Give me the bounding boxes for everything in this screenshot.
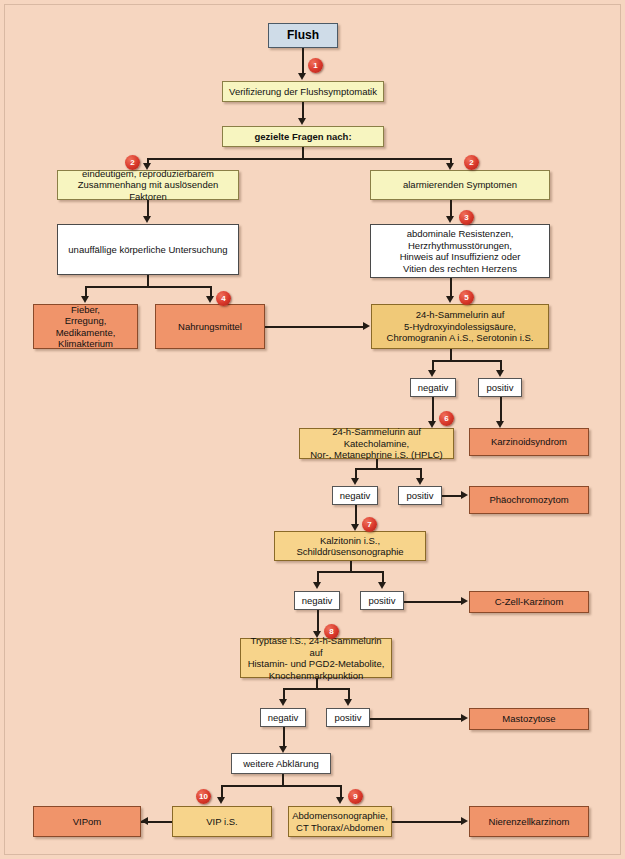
connector-tryptase-split: [283, 688, 349, 690]
arrowhead-kat-negativ: [351, 478, 359, 485]
chip-positiv-2[interactable]: positiv: [398, 486, 442, 505]
badge-8[interactable]: 8: [324, 624, 339, 639]
connector-kalzitonin-split: [317, 571, 383, 573]
arrowhead-abkl-imaging: [336, 797, 344, 804]
node-ursachen-fieber[interactable]: Fieber, Erregung, Medikamente, Klimakter…: [33, 304, 138, 349]
connector-findings-test5hiaa: [450, 278, 452, 296]
arrowhead-test5hiaa-negativ: [428, 370, 436, 377]
node-nahrungsmittel[interactable]: Nahrungsmittel: [155, 304, 265, 349]
chip-negativ-3[interactable]: negativ: [294, 591, 340, 610]
connector-abklaerung-split: [221, 785, 341, 787]
arrowhead-questions-right: [446, 163, 454, 170]
node-test-vip[interactable]: VIP i.S.: [172, 806, 272, 837]
arrowhead-tryp-positiv: [344, 699, 352, 706]
arrowhead-exam-fever: [81, 296, 89, 303]
connector-pos2-pheo: [442, 495, 461, 497]
node-dx-c-zell-karzinom[interactable]: C-Zell-Karzinom: [469, 591, 589, 613]
arrowhead-pos3-czell: [461, 597, 468, 605]
arrowhead-kalz-positiv: [378, 582, 386, 589]
arrowhead-neg2-kalzitonin: [351, 524, 359, 531]
node-start-flush[interactable]: Flush: [268, 23, 338, 48]
arrowhead-pos4-mastozytose: [461, 714, 468, 722]
badge-1[interactable]: 1: [308, 58, 323, 73]
node-test-kalzitonin[interactable]: Kalzitonin i.S., Schilddrüsensonographie: [274, 531, 426, 561]
arrowhead-imaging-renal: [461, 817, 468, 825]
node-dx-phaeochromozytom[interactable]: Phäochromozytom: [469, 486, 589, 514]
connector-neg1-katecholamine: [432, 397, 434, 422]
node-verifizierung[interactable]: Verifizierung der Flushsymptomatik: [222, 81, 384, 102]
connector-exam-split: [85, 286, 211, 288]
badge-2a[interactable]: 2: [125, 155, 140, 170]
arrowhead-pos2-pheo: [461, 491, 468, 499]
arrowhead-food-test5hiaa: [363, 322, 370, 330]
badge-2b[interactable]: 2: [464, 155, 479, 170]
connector-food-test5hiaa: [265, 326, 363, 328]
node-test-bildgebung[interactable]: Abdomensonographie, CT Thorax/Abdomen: [288, 806, 392, 837]
arrowhead-neg3-tryptase: [313, 631, 321, 638]
arrowhead-branchright-findings: [446, 216, 454, 223]
arrowhead-kalz-negativ: [313, 582, 321, 589]
flowchart-canvas: Flush Verifizierung der Flushsymptomatik…: [0, 0, 625, 859]
arrowhead-vip-vipom: [141, 817, 148, 825]
connector-pos3-czell: [404, 601, 461, 603]
badge-5[interactable]: 5: [459, 290, 474, 305]
node-branch-right[interactable]: alarmierenden Symptomen: [370, 170, 550, 200]
connector-neg2-kalzitonin: [355, 505, 357, 525]
node-weitere-abklaerung[interactable]: weitere Abklärung: [231, 753, 331, 774]
node-test-katecholamine[interactable]: 24-h-Sammelurin auf Katecholamine, Nor-,…: [299, 428, 454, 459]
node-test-5hiaa[interactable]: 24-h-Sammelurin auf 5-Hydroxyindolessigs…: [371, 304, 549, 349]
badge-4[interactable]: 4: [216, 291, 231, 306]
node-dx-nierenzellkarzinom[interactable]: Nierenzellkarzinom: [469, 806, 589, 837]
badge-6[interactable]: 6: [439, 411, 454, 426]
connector-imaging-renal: [392, 821, 461, 823]
badge-10[interactable]: 10: [196, 789, 211, 804]
chip-negativ-1[interactable]: negativ: [410, 378, 456, 397]
chip-positiv-1[interactable]: positiv: [478, 378, 522, 397]
connector-branchright-findings: [450, 200, 452, 217]
node-dx-karzinoidsyndrom[interactable]: Karzinoidsyndrom: [469, 428, 589, 456]
connector-neg3-tryptase: [317, 610, 319, 632]
connector-pos4-mastozytose: [370, 718, 461, 720]
arrowhead-exam-food: [206, 296, 214, 303]
connector-pos1-karzinoid: [500, 397, 502, 422]
connector-test5hiaa-split: [432, 360, 501, 362]
arrowhead-verify-questions: [298, 118, 306, 125]
badge-3[interactable]: 3: [459, 210, 474, 225]
arrowhead-findings-test5hiaa: [446, 296, 454, 303]
arrowhead-pos1-karzinoid: [496, 421, 504, 428]
arrowhead-tryp-negativ: [279, 699, 287, 706]
node-befunde-rechts[interactable]: abdominale Resistenzen, Herzrhythmusstör…: [370, 224, 550, 278]
arrowhead-questions-left: [143, 163, 151, 170]
connector-neg4-abklaerung: [283, 727, 285, 747]
badge-7[interactable]: 7: [362, 517, 377, 532]
connector-katecholamine-split: [355, 468, 421, 470]
connector-verify-questions: [302, 102, 304, 119]
chip-positiv-3[interactable]: positiv: [360, 591, 404, 610]
chip-positiv-4[interactable]: positiv: [326, 708, 370, 727]
node-branch-left[interactable]: eindeutigem, reproduzierbarem Zusammenha…: [57, 170, 239, 200]
node-dx-vipom[interactable]: VIPom: [33, 806, 141, 837]
connector-start-verify: [302, 48, 304, 74]
arrowhead-test5hiaa-positiv: [496, 370, 504, 377]
arrowhead-kat-positiv: [416, 478, 424, 485]
node-dx-mastozytose[interactable]: Mastozytose: [469, 708, 589, 730]
badge-9[interactable]: 9: [348, 789, 363, 804]
connector-questions-split: [147, 158, 451, 160]
connector-branchleft-exam: [147, 200, 149, 217]
arrowhead-abkl-vip: [217, 797, 225, 804]
arrowhead-neg1-katecholamine: [428, 421, 436, 428]
node-gezielte-fragen[interactable]: gezielte Fragen nach:: [222, 126, 384, 147]
arrowhead-neg4-abklaerung: [279, 746, 287, 753]
arrowhead-start-verify: [298, 73, 306, 80]
chip-negativ-2[interactable]: negativ: [332, 486, 378, 505]
node-test-tryptase[interactable]: Tryptase i.S., 24-h-Sammelurin auf Hista…: [240, 638, 392, 678]
node-unauffaellige-untersuchung[interactable]: unauffällige körperliche Untersuchung: [57, 224, 239, 275]
chip-negativ-4[interactable]: negativ: [260, 708, 306, 727]
arrowhead-branchleft-exam: [143, 216, 151, 223]
